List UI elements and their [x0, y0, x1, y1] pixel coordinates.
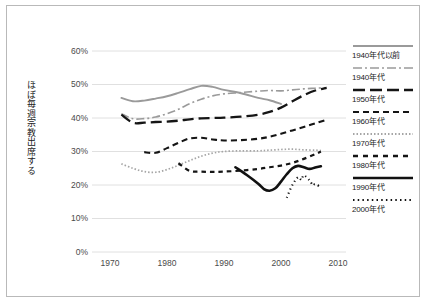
series-line-0 [121, 86, 281, 104]
legend: 1940年代以前1940年代1950年代1960年代1970年代1980年代19… [352, 41, 422, 217]
series-line-1 [121, 88, 326, 120]
legend-1960s-swatch-icon [352, 107, 414, 116]
legend-1940s[interactable]: 1940年代 [352, 63, 422, 84]
series-lines [121, 86, 326, 198]
series-line-3 [144, 120, 326, 153]
legend-1950s[interactable]: 1950年代 [352, 85, 422, 106]
legend-pre1940s-label: 1940年代以前 [352, 50, 422, 62]
legend-pre1940s-swatch-icon [352, 41, 414, 50]
legend-1990s[interactable]: 1990年代 [352, 173, 422, 194]
series-line-5 [178, 152, 321, 172]
legend-1970s[interactable]: 1970年代 [352, 129, 422, 150]
series-line-7 [287, 175, 321, 197]
legend-1960s-label: 1960年代 [352, 116, 422, 128]
legend-1950s-swatch-icon [352, 85, 414, 94]
legend-1970s-label: 1970年代 [352, 138, 422, 150]
chart-container: ほぼ毎週宗教出席する 60% 50% 40% 30% 20% 10% 0% 19… [0, 0, 427, 304]
legend-1970s-swatch-icon [352, 129, 414, 138]
legend-1980s-label: 1980年代 [352, 160, 422, 172]
legend-2000s-label: 2000年代 [352, 204, 422, 216]
legend-1960s[interactable]: 1960年代 [352, 107, 422, 128]
legend-2000s-swatch-icon [352, 195, 414, 204]
legend-2000s[interactable]: 2000年代 [352, 195, 422, 216]
legend-1940s-swatch-icon [352, 63, 414, 72]
legend-1940s-label: 1940年代 [352, 72, 422, 84]
legend-1990s-label: 1990年代 [352, 182, 422, 194]
legend-1950s-label: 1950年代 [352, 94, 422, 106]
legend-1980s-swatch-icon [352, 151, 414, 160]
legend-1990s-swatch-icon [352, 173, 414, 182]
legend-1980s[interactable]: 1980年代 [352, 151, 422, 172]
legend-pre1940s[interactable]: 1940年代以前 [352, 41, 422, 62]
